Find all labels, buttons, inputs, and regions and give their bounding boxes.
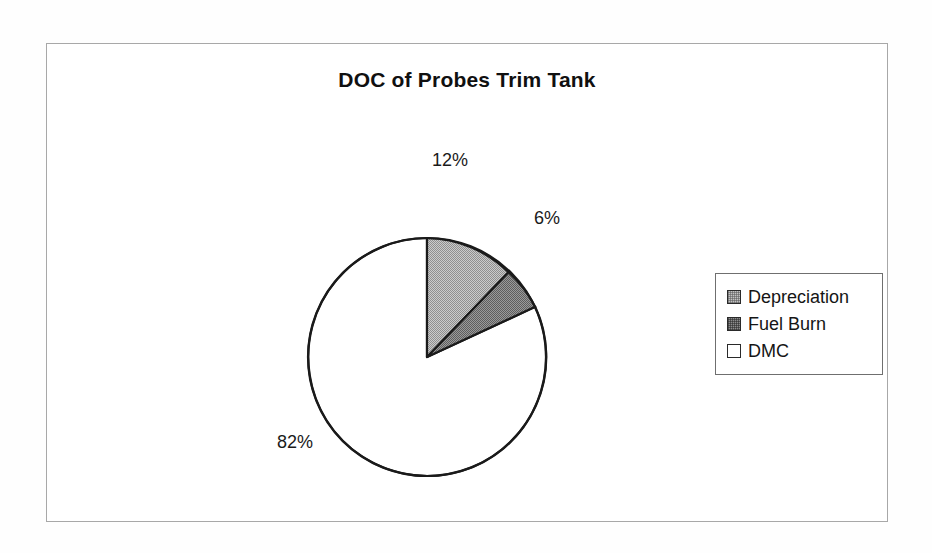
legend-label-dmc: DMC <box>748 342 789 360</box>
legend-label-depreciation: Depreciation <box>748 288 849 306</box>
pie-chart: 12% 6% 82% <box>262 154 622 484</box>
pie-svg <box>262 154 622 484</box>
legend-label-fuel-burn: Fuel Burn <box>748 315 826 333</box>
chart-frame: DOC of Probes Trim Tank <box>46 43 888 522</box>
legend-swatch-dmc-icon <box>727 344 741 358</box>
legend-swatch-fuel-burn-icon <box>727 317 741 331</box>
pie-label-fuel-burn: 6% <box>534 208 560 229</box>
chart-legend: Depreciation Fuel Burn DMC <box>715 273 883 375</box>
page-background: DOC of Probes Trim Tank <box>0 0 932 553</box>
legend-item-depreciation: Depreciation <box>727 283 872 310</box>
pie-label-dmc: 82% <box>277 432 313 453</box>
chart-title: DOC of Probes Trim Tank <box>47 68 887 92</box>
pie-label-depreciation: 12% <box>432 150 468 171</box>
legend-item-fuel-burn: Fuel Burn <box>727 310 872 337</box>
legend-item-dmc: DMC <box>727 337 872 364</box>
legend-swatch-depreciation-icon <box>727 290 741 304</box>
